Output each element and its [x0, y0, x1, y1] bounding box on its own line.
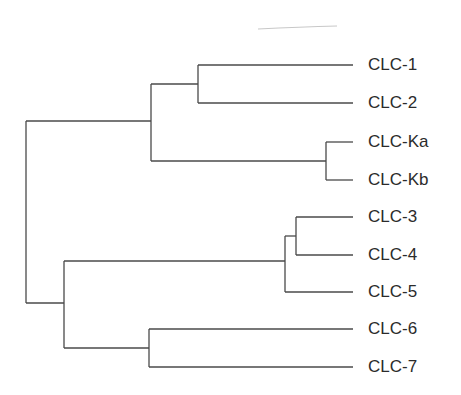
- leaf-label-clc-3: CLC-3: [368, 207, 417, 227]
- leaf-label-clc-6: CLC-6: [368, 319, 417, 339]
- leaf-label-clc-7: CLC-7: [368, 357, 417, 377]
- leaf-label-clc-1: CLC-1: [368, 55, 417, 75]
- leaf-label-clc-4: CLC-4: [368, 245, 417, 265]
- leaf-label-clc-5: CLC-5: [368, 282, 417, 302]
- leaf-label-clc-kb: CLC-Kb: [368, 170, 428, 190]
- leaf-label-clc-2: CLC-2: [368, 93, 417, 113]
- leaf-label-clc-ka: CLC-Ka: [368, 132, 428, 152]
- scan-smudge: [258, 26, 337, 29]
